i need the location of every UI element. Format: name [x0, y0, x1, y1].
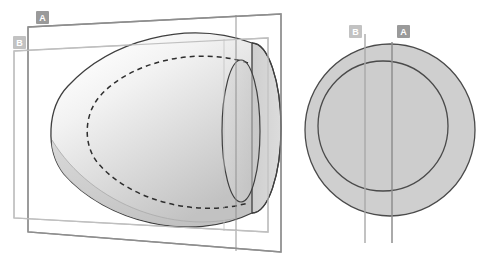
- section-b-label-text: B: [352, 27, 359, 37]
- plane-a-label-text: A: [39, 13, 46, 23]
- section-a-label-text: A: [400, 27, 407, 37]
- section-b-label-badge: B: [349, 25, 362, 38]
- shell-inner-rim: [222, 60, 260, 202]
- section-a-label-badge: A: [397, 25, 410, 38]
- section-inner-circle: [318, 61, 448, 191]
- left-perspective-view: A B: [13, 11, 281, 252]
- plane-a-label-badge: A: [36, 11, 49, 24]
- figure-root: A B B A: [0, 0, 490, 266]
- plane-b-label-text: B: [16, 38, 23, 48]
- right-cross-section-view: B A: [305, 25, 475, 243]
- geometry-figure: A B B A: [0, 0, 490, 266]
- plane-b-label-badge: B: [13, 36, 26, 49]
